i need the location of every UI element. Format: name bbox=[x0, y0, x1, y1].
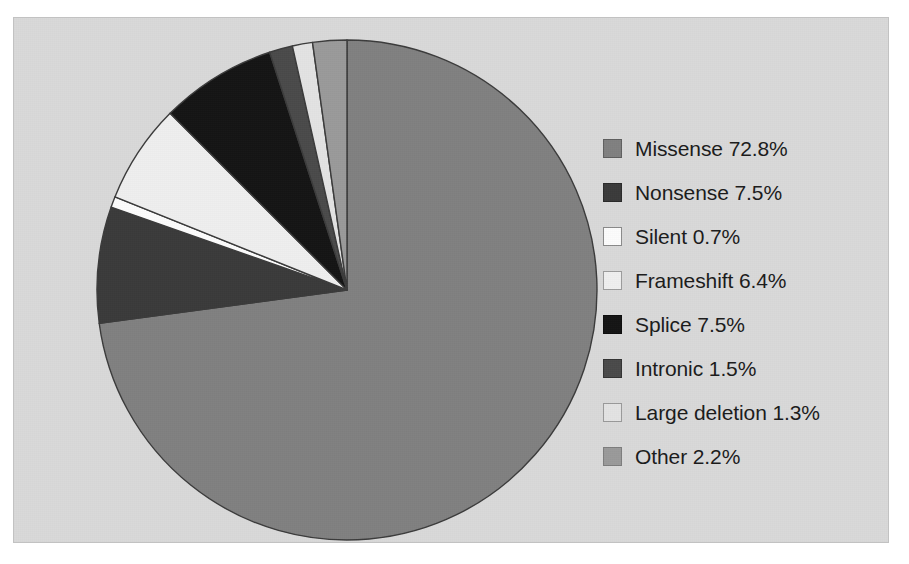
chart-legend: Missense 72.8%Nonsense 7.5%Silent 0.7%Fr… bbox=[603, 126, 893, 478]
pie-slice-group bbox=[97, 40, 597, 540]
legend-swatch-icon bbox=[603, 315, 622, 334]
legend-item-silent[interactable]: Silent 0.7% bbox=[603, 214, 893, 258]
legend-item-label: Intronic 1.5% bbox=[635, 358, 756, 379]
pie-chart bbox=[92, 38, 602, 543]
legend-swatch-icon bbox=[603, 403, 622, 422]
legend-item-missense[interactable]: Missense 72.8% bbox=[603, 126, 893, 170]
legend-swatch-icon bbox=[603, 183, 622, 202]
legend-item-intronic[interactable]: Intronic 1.5% bbox=[603, 346, 893, 390]
legend-swatch-icon bbox=[603, 359, 622, 378]
pie-chart-screenshot: Missense 72.8%Nonsense 7.5%Silent 0.7%Fr… bbox=[0, 0, 909, 564]
legend-item-large-deletion[interactable]: Large deletion 1.3% bbox=[603, 390, 893, 434]
legend-item-frameshift[interactable]: Frameshift 6.4% bbox=[603, 258, 893, 302]
legend-item-label: Splice 7.5% bbox=[635, 314, 745, 335]
legend-item-splice[interactable]: Splice 7.5% bbox=[603, 302, 893, 346]
legend-item-other[interactable]: Other 2.2% bbox=[603, 434, 893, 478]
legend-item-label: Large deletion 1.3% bbox=[635, 402, 820, 423]
legend-item-label: Missense 72.8% bbox=[635, 138, 788, 159]
legend-swatch-icon bbox=[603, 447, 622, 466]
chart-plot-area: Missense 72.8%Nonsense 7.5%Silent 0.7%Fr… bbox=[13, 17, 889, 543]
legend-item-label: Silent 0.7% bbox=[635, 226, 740, 247]
legend-item-label: Frameshift 6.4% bbox=[635, 270, 786, 291]
legend-item-label: Other 2.2% bbox=[635, 446, 740, 467]
legend-swatch-icon bbox=[603, 227, 622, 246]
legend-swatch-icon bbox=[603, 271, 622, 290]
legend-swatch-icon bbox=[603, 139, 622, 158]
legend-item-nonsense[interactable]: Nonsense 7.5% bbox=[603, 170, 893, 214]
legend-item-label: Nonsense 7.5% bbox=[635, 182, 782, 203]
